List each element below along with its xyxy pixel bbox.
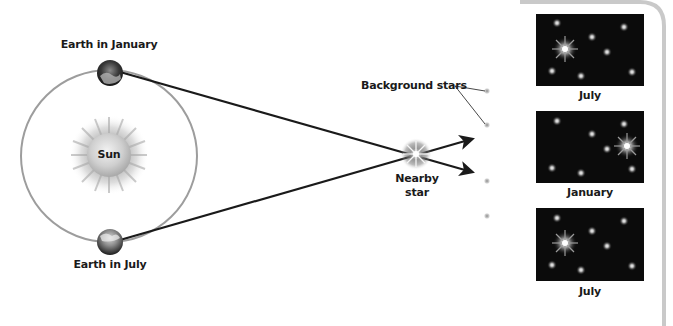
star-field-july-top bbox=[536, 14, 644, 86]
label-nearby-star-line2: star bbox=[395, 186, 438, 200]
panel-label-july-top: July bbox=[579, 89, 601, 102]
label-background-stars: Background stars bbox=[361, 79, 467, 92]
background-stars bbox=[484, 88, 491, 220]
label-nearby-star: Nearby star bbox=[395, 172, 438, 200]
earth-january-icon bbox=[97, 60, 123, 86]
label-earth-january: Earth in January bbox=[61, 38, 158, 51]
parallax-diagram: Earth in January Earth in July Sun Nearb… bbox=[0, 0, 673, 326]
panel-label-july-bottom: July bbox=[579, 285, 601, 298]
star-field-january bbox=[536, 111, 644, 183]
nearby-star-icon bbox=[400, 138, 432, 170]
label-nearby-star-line1: Nearby bbox=[395, 172, 438, 186]
panel-label-january: January bbox=[567, 186, 613, 199]
label-earth-july: Earth in July bbox=[74, 258, 147, 271]
label-sun: Sun bbox=[98, 148, 121, 161]
earth-july-icon bbox=[97, 229, 123, 255]
star-field-july-bottom bbox=[536, 208, 644, 281]
